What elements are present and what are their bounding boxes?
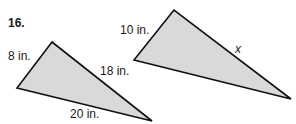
- left-middle-side-label: 18 in.: [100, 65, 129, 77]
- right-short-side-label: 10 in.: [120, 24, 149, 36]
- left-short-side-label: 8 in.: [8, 50, 31, 62]
- figure-canvas: [0, 0, 296, 124]
- problem-number: 16.: [8, 17, 25, 29]
- left-long-side-label: 20 in.: [70, 108, 99, 120]
- right-triangle: [134, 10, 291, 99]
- right-unknown-side-label: x: [235, 43, 241, 55]
